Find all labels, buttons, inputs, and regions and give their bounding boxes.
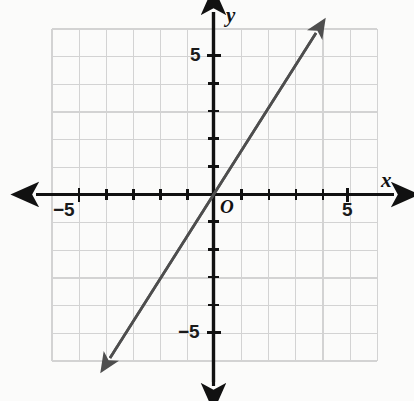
y-axis-label: y [226, 5, 235, 26]
coordinate-plane-figure: y x O −5 5 5 −5 [0, 0, 414, 401]
axes [36, 12, 394, 386]
x-tick-label-neg-5: −5 [53, 200, 75, 219]
y-tick-label-pos-5: 5 [190, 45, 201, 64]
y-tick-label-neg-5: −5 [178, 322, 200, 341]
x-tick-label-pos-5: 5 [342, 200, 353, 219]
x-axis-label: x [381, 170, 392, 191]
origin-label: O [220, 197, 234, 216]
